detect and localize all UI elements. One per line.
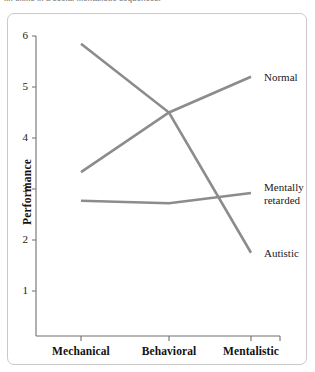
series-line-normal — [81, 77, 251, 172]
data-layer — [8, 14, 307, 365]
figure-container: ...: skills in a social mentalistic sequ… — [0, 0, 315, 372]
caption-text: ...: skills in a social mentalistic sequ… — [4, 0, 161, 3]
series-label-mentally-retarded: Mentally retarded — [264, 181, 304, 206]
x-tick-label-behavioral: Behavioral — [142, 345, 197, 357]
y-tick-label: 1 — [7, 285, 28, 296]
series-line-mentally-retarded — [81, 193, 251, 203]
caption-strip: ...: skills in a social mentalistic sequ… — [0, 0, 315, 9]
x-tick-label-mentalistic: Mentalistic — [223, 345, 279, 357]
y-tick-label: 5 — [7, 81, 28, 92]
series-label-normal: Normal — [264, 71, 298, 84]
chart-panel: 123456 MechanicalBehavioralMentalistic N… — [7, 13, 307, 365]
y-tick-label: 6 — [7, 30, 28, 41]
x-tick-label-mechanical: Mechanical — [52, 345, 110, 357]
series-label-autistic: Autistic — [264, 247, 299, 260]
series-line-autistic — [81, 44, 251, 253]
plot-area: 123456 MechanicalBehavioralMentalistic N… — [8, 14, 307, 365]
y-axis-title: Performance — [21, 137, 33, 247]
